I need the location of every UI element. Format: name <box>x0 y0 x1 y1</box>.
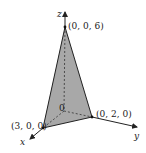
face-front <box>43 27 92 128</box>
y-axis-label: y <box>133 131 140 141</box>
origin-label: 0 <box>59 103 65 113</box>
y-intercept-label: (0, 2, 0) <box>96 109 132 119</box>
z-axis-label: z <box>56 9 62 19</box>
tetrahedron-diagram: z x y 0 (0, 0, 6) (3, 0, 0) (0, 2, 0) <box>0 0 146 153</box>
vertex-y <box>91 116 94 119</box>
apex-label: (0, 0, 6) <box>68 21 104 31</box>
vertex-apex <box>64 26 67 29</box>
x-intercept-label: (3, 0, 0) <box>11 121 47 131</box>
x-axis-label: x <box>20 137 25 147</box>
